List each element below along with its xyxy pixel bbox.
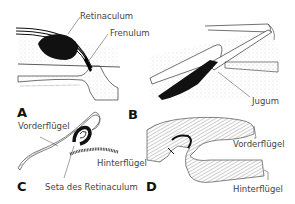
panel-a-drawing	[16, 17, 120, 100]
label-d-vorderfluegel: Vorderflügel	[233, 140, 285, 149]
panel-b-drawing	[150, 24, 280, 100]
panel-letter-d: D	[146, 180, 157, 193]
panel-letter-c: C	[17, 180, 27, 193]
panel-letter-a: A	[17, 106, 27, 119]
label-c-vorderfluegel: Vorderflügel	[18, 122, 70, 131]
panel-letter-b: B	[128, 108, 138, 121]
panel-d-drawing	[147, 117, 268, 182]
label-retinaculum: Retinaculum	[80, 12, 133, 21]
label-d-hinterfluegel: Hinterflügel	[233, 185, 283, 194]
label-frenulum: Frenulum	[110, 29, 150, 38]
label-jugum: Jugum	[252, 97, 279, 106]
label-seta-des-retinaculum: Seta des Retinaculum	[45, 183, 138, 192]
label-c-hinterfluegel: Hinterflügel	[97, 159, 147, 168]
